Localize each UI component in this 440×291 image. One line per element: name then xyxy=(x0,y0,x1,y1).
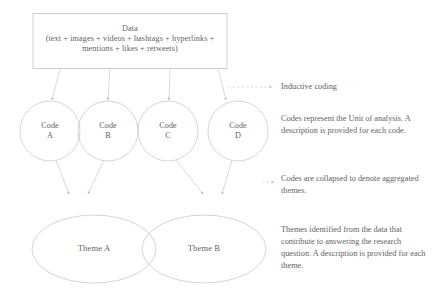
connector-code-a-to-theme-a xyxy=(56,160,69,194)
connector-code-d-to-theme-b xyxy=(222,160,232,194)
code-circle-c xyxy=(138,101,198,161)
annotation-codes-meaning: Codes represent the Unit of analysis. A … xyxy=(281,113,433,137)
code-circle-b xyxy=(78,101,138,161)
connector-data-to-code-a xyxy=(52,69,60,100)
theme-ellipse-b xyxy=(142,215,266,283)
code-circle-d xyxy=(208,101,268,161)
connector-data-to-code-d xyxy=(218,69,226,100)
connector-data-to-code-c xyxy=(169,69,170,100)
connector-code-b-to-theme-a xyxy=(88,160,104,194)
data-box-shape xyxy=(33,14,227,69)
annotation-codes-collapsed: Codes are collapsed to denote aggregated… xyxy=(281,173,433,197)
code-circle-a xyxy=(20,101,80,161)
annotation-inductive-coding: Inductive coding xyxy=(281,81,431,93)
thematic-analysis-diagram: Data (text + images + videos + hashtags … xyxy=(0,0,440,291)
connector-data-to-code-b xyxy=(108,69,110,100)
theme-ellipse-a xyxy=(32,215,156,283)
connector-code-c-to-theme-b xyxy=(176,160,203,194)
annotation-themes-meaning: Themes identified from the data that con… xyxy=(281,224,433,272)
